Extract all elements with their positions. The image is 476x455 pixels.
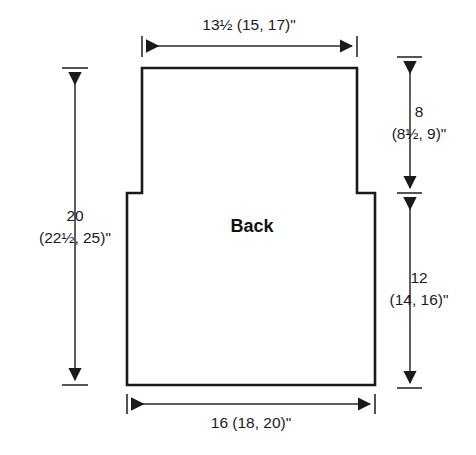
right-upper-label-line2: (8½, 9)" (392, 125, 447, 142)
dimension-bottom-width: 16 (18, 20)" (127, 394, 375, 431)
dimension-top-width: 13½ (15, 17)" (142, 16, 357, 57)
dimension-left-total-height: 20 (22½, 25)" (39, 68, 111, 385)
right-upper-label-line1: 8 (415, 103, 424, 120)
schematic-canvas: 13½ (15, 17)" 16 (18, 20)" 20 (22½, 25)"… (0, 0, 476, 455)
bottom-dim-label: 16 (18, 20)" (211, 414, 291, 431)
dimension-right-upper-height: 8 (8½, 9)" (392, 57, 447, 193)
left-dim-label-line1: 20 (66, 207, 84, 224)
right-lower-label-line1: 12 (410, 269, 427, 286)
left-dim-label-line2: (22½, 25)" (39, 229, 111, 246)
piece-label-back: Back (230, 216, 274, 236)
garment-schematic-diagram: 13½ (15, 17)" 16 (18, 20)" 20 (22½, 25)"… (0, 0, 476, 455)
top-dim-label: 13½ (15, 17)" (202, 16, 295, 33)
dimension-right-lower-height: 12 (14, 16)" (390, 198, 449, 388)
right-lower-label-line2: (14, 16)" (390, 291, 449, 308)
